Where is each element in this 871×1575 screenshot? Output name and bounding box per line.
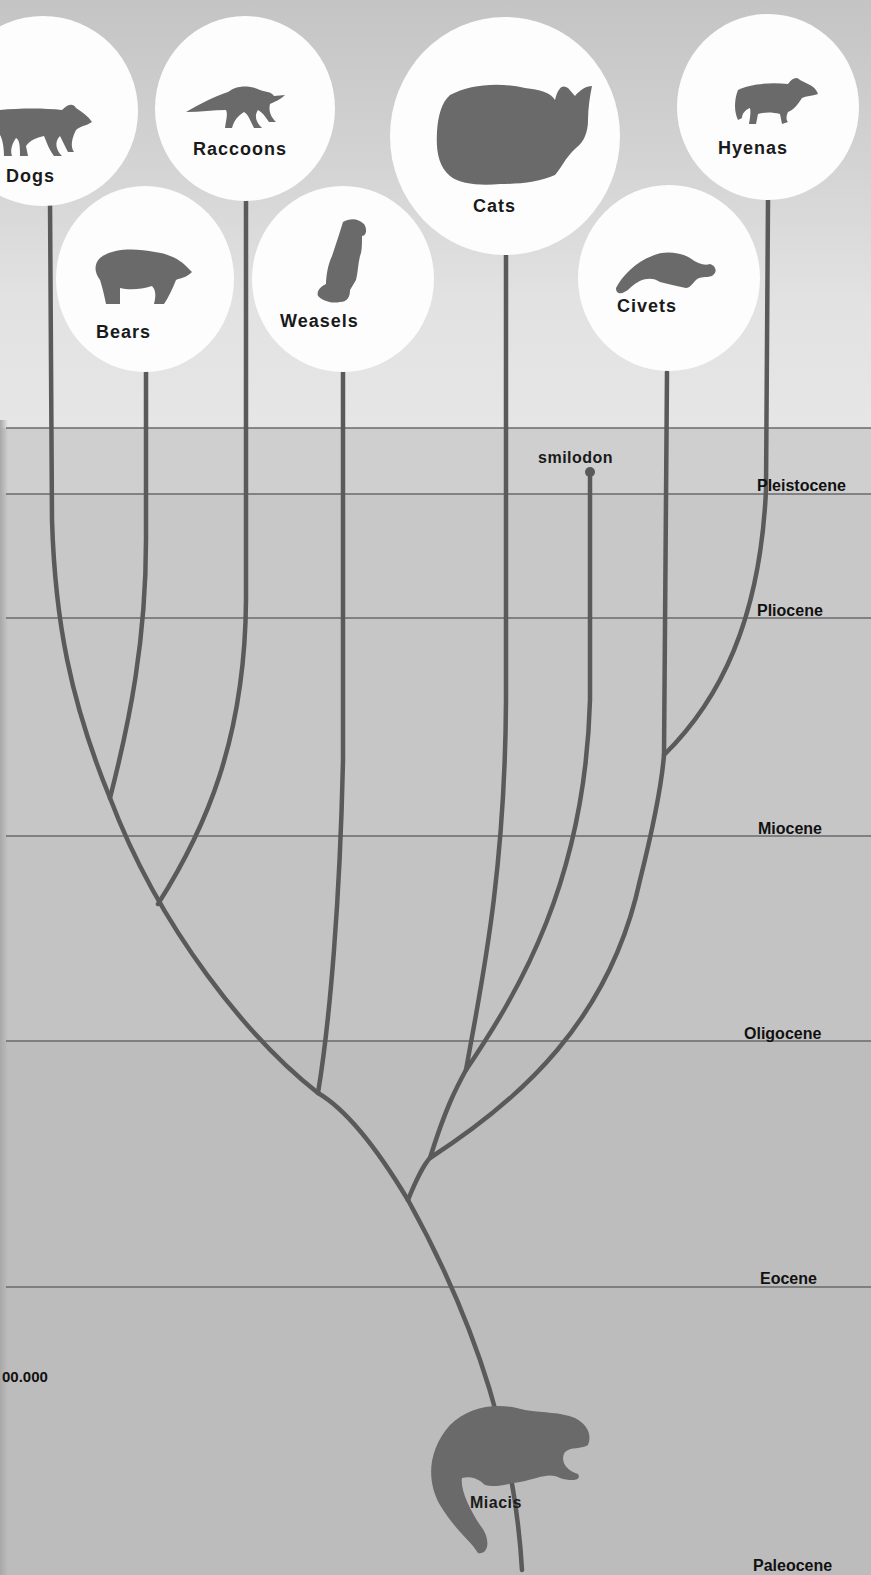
group-label-weasels: Weasels: [280, 311, 359, 332]
raccoon-silhouette-icon: [186, 86, 285, 128]
epoch-label-eocene: Eocene: [760, 1270, 817, 1288]
epoch-label-miocene: Miocene: [758, 820, 822, 838]
epoch-label-paleocene: Paleocene: [753, 1557, 832, 1575]
epoch-label-oligocene: Oligocene: [744, 1025, 821, 1043]
hyena-silhouette-icon: [735, 78, 818, 124]
bear-silhouette-icon: [96, 250, 193, 304]
group-label-civets: Civets: [617, 296, 677, 317]
epoch-label-pleistocene: Pleistocene: [757, 477, 846, 495]
group-label-dogs: Dogs: [6, 166, 55, 187]
epoch-label-pliocene: Pliocene: [757, 602, 823, 620]
group-silhouettes: [0, 0, 871, 1575]
group-label-raccoons: Raccoons: [193, 139, 287, 160]
extinct-label-smilodon: smilodon: [538, 449, 613, 467]
dog-silhouette-icon: [0, 105, 92, 156]
group-label-hyenas: Hyenas: [718, 138, 788, 159]
civet-silhouette-icon: [616, 252, 716, 293]
age-marker-label: 00.000: [2, 1368, 48, 1385]
cat-silhouette-icon: [437, 85, 592, 185]
group-label-bears: Bears: [96, 322, 151, 343]
ancestor-label-miacis: Miacis: [470, 1494, 522, 1512]
group-label-cats: Cats: [473, 196, 516, 217]
weasel-silhouette-icon: [318, 219, 366, 302]
